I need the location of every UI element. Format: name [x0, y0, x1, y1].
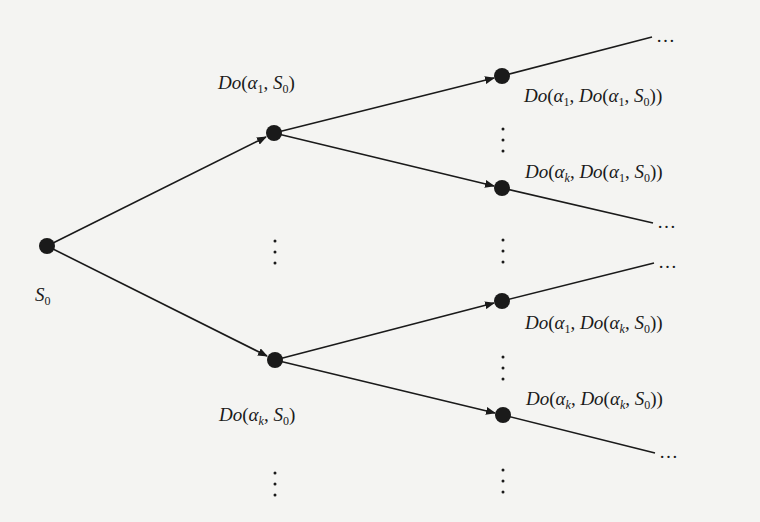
node-do-a1-s0 [266, 125, 282, 141]
continuation-ellipsis-1: … [656, 26, 675, 45]
action: α [248, 72, 258, 93]
vertical-ellipsis-level1-middle [274, 240, 277, 265]
node-do-ak-do-ak-s0 [495, 407, 511, 423]
vertical-ellipsis-level2-c [502, 356, 505, 381]
label-do-a1-s0: Do(α1, S0) [218, 73, 295, 92]
label-do-a1-do-a1-s0: Do(α1, Do(α1, S0)) [524, 86, 662, 105]
vertical-ellipsis-level1-bottom [274, 472, 277, 497]
situation-tree-diagram: … … … … S0 Do(α1, S0) Do(αk, S0) Do(α1, … [0, 0, 760, 522]
vertical-ellipsis-level2-a [502, 128, 505, 153]
node-do-ak-do-a1-s0 [494, 180, 510, 196]
edge-do-a1-s0-to-do-ak-do-a1-s0 [274, 133, 494, 186]
close-paren: ) [289, 404, 295, 425]
vertical-ellipsis-level2-b [502, 239, 505, 264]
edge-s0-to-do-ak-s0 [47, 246, 267, 356]
edge-do-a1-s0-to-do-a1-do-a1-s0 [274, 78, 494, 133]
label-s0-sub: 0 [45, 294, 51, 308]
edge-do-ak-s0-to-do-ak-do-ak-s0 [275, 360, 495, 413]
node-do-ak-s0 [267, 352, 283, 368]
comma: , [264, 72, 274, 93]
node-do-a1-do-a1-s0 [494, 68, 510, 84]
vertical-ellipsis-level2-d [502, 469, 505, 494]
edge-s0-to-do-a1-s0 [47, 137, 266, 246]
tree-graphics [0, 0, 760, 522]
fn: Do [218, 72, 241, 93]
label-do-ak-s0: Do(αk, S0) [219, 405, 295, 424]
comma: , [264, 404, 274, 425]
label-do-ak-do-a1-s0: Do(αk, Do(α1, S0)) [525, 162, 663, 181]
continuation-edge-4 [503, 415, 655, 453]
fn: Do [219, 404, 242, 425]
continuation-edge-3 [502, 263, 654, 301]
action: α [249, 404, 259, 425]
node-do-a1-do-ak-s0 [494, 293, 510, 309]
edge-do-ak-s0-to-do-a1-do-ak-s0 [275, 303, 494, 360]
label-do-a1-do-ak-s0: Do(α1, Do(αk, S0)) [525, 313, 663, 332]
label-s0-base: S [35, 284, 45, 305]
continuation-edge-2 [502, 188, 653, 223]
continuation-ellipsis-4: … [659, 442, 678, 461]
node-s0 [39, 238, 55, 254]
continuation-ellipsis-3: … [658, 252, 677, 271]
close-paren: ) [289, 72, 295, 93]
label-s0: S0 [35, 285, 51, 304]
situation: S [273, 404, 283, 425]
continuation-ellipsis-2: … [657, 212, 676, 231]
situation: S [273, 72, 283, 93]
label-do-ak-do-ak-s0: Do(αk, Do(αk, S0)) [526, 389, 663, 408]
continuation-edge-1 [502, 37, 652, 76]
